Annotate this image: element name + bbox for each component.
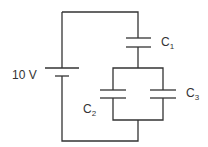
left-wire-lower xyxy=(62,76,138,141)
circuit-diagram: 10 V C1 C2 C3 xyxy=(0,0,208,147)
c2-label: C2 xyxy=(83,103,96,118)
c3-label: C3 xyxy=(186,87,199,102)
battery-label: 10 V xyxy=(12,69,37,81)
parallel-bottom-wire xyxy=(113,98,163,120)
c1-label: C1 xyxy=(161,36,174,51)
top-wire xyxy=(62,12,138,38)
parallel-top-wire xyxy=(113,68,163,90)
